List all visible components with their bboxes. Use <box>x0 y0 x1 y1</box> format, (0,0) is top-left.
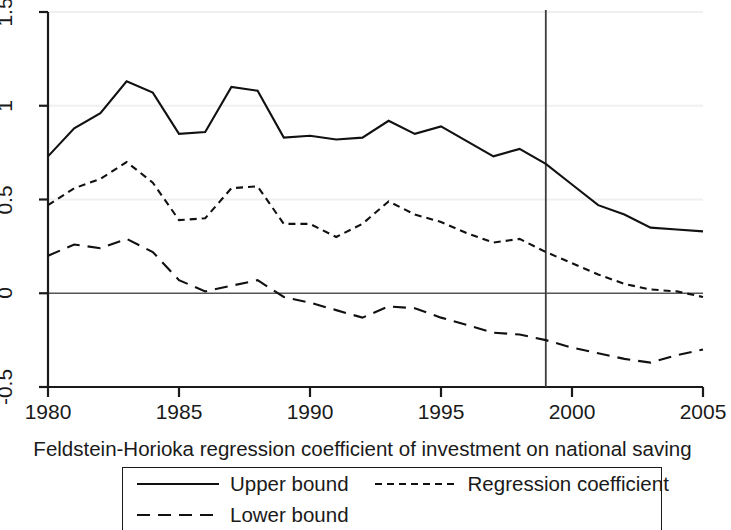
x-tick-label: 1990 <box>270 400 350 424</box>
x-tick-label: 1980 <box>8 400 88 424</box>
tick-marks <box>39 12 703 397</box>
y-tick-label: 1.5 <box>0 0 18 39</box>
legend-label-regression-coefficient: Regression coefficient <box>468 472 669 496</box>
legend-item-upper-bound: Upper bound <box>135 472 349 496</box>
x-tick-label: 2005 <box>663 400 731 424</box>
y-tick-label: 0.5 <box>0 173 18 227</box>
legend-label-lower-bound: Lower bound <box>230 503 349 527</box>
series-dashed <box>48 239 703 363</box>
series-dotted <box>48 162 703 297</box>
legend-swatch-dashed-icon <box>135 508 221 522</box>
x-tick-label: 1995 <box>401 400 481 424</box>
legend-item-lower-bound: Lower bound <box>135 503 349 527</box>
data-series <box>48 81 703 362</box>
legend-swatch-dotted-icon <box>373 477 459 491</box>
legend-label-upper-bound: Upper bound <box>230 472 349 496</box>
legend-item-regression-coefficient: Regression coefficient <box>373 472 669 496</box>
y-tick-label: 1 <box>0 79 18 133</box>
x-tick-label: 2000 <box>532 400 612 424</box>
chart-legend: Upper bound Regression coefficient Lower… <box>122 467 662 530</box>
x-tick-label: 1985 <box>139 400 219 424</box>
series-solid <box>48 81 703 231</box>
y-tick-label: 0 <box>0 266 18 320</box>
legend-row-bottom: Lower bound <box>123 499 661 530</box>
x-axis-title: Feldstein-Horioka regression coefficient… <box>0 437 725 461</box>
legend-row-top: Upper bound Regression coefficient <box>123 468 661 499</box>
legend-swatch-solid-icon <box>135 477 221 491</box>
gridlines <box>48 12 703 387</box>
